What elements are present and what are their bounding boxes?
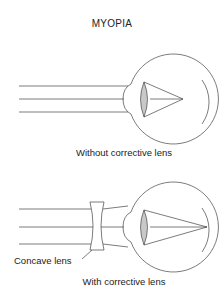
concave-lens xyxy=(90,202,104,250)
concave-lens-label: Concave lens xyxy=(14,255,72,266)
caption-without-lens: Without corrective lens xyxy=(12,147,224,158)
eye-without-lens xyxy=(19,54,218,144)
caption-with-lens: With corrective lens xyxy=(12,276,224,287)
